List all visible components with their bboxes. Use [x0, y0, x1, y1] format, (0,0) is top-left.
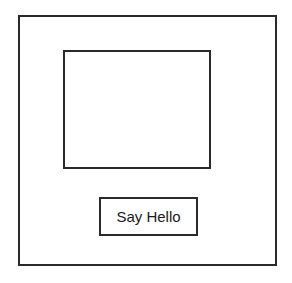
say-hello-button[interactable]: Say Hello [99, 197, 198, 236]
content-panel [63, 50, 211, 169]
